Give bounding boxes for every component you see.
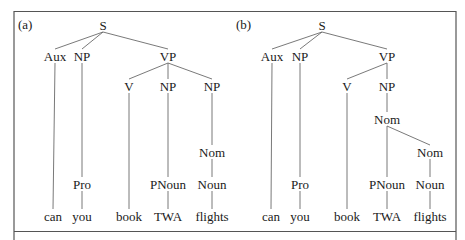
word-book: book bbox=[116, 209, 143, 224]
node-pro: Pro bbox=[291, 177, 309, 192]
node-np: NP bbox=[292, 49, 309, 64]
node-aux: Aux bbox=[261, 49, 284, 64]
tree-edge bbox=[322, 32, 387, 49]
node-nom: Nom bbox=[417, 145, 443, 160]
tree-edge bbox=[129, 63, 168, 79]
word-flights: flights bbox=[413, 209, 446, 224]
tree-edge bbox=[272, 32, 322, 49]
word-can: can bbox=[44, 209, 63, 224]
node-noun: Noun bbox=[198, 177, 227, 192]
node-nom: Nom bbox=[374, 112, 400, 127]
node-pnoun: PNoun bbox=[150, 177, 187, 192]
word-can: can bbox=[262, 209, 281, 224]
parse-tree-figure: (a) (b) SAuxNPVPVNPNPNomProPNounNouncany… bbox=[0, 0, 465, 240]
node-aux: Aux bbox=[44, 49, 67, 64]
panel-label-a: (a) bbox=[18, 17, 32, 32]
word-book: book bbox=[334, 209, 361, 224]
node-v: V bbox=[342, 79, 352, 94]
tree-edge bbox=[387, 126, 430, 145]
panel-label-b: (b) bbox=[236, 17, 251, 32]
tree-edge bbox=[82, 32, 103, 49]
tree-edge bbox=[271, 63, 272, 209]
node-nom: Nom bbox=[199, 145, 225, 160]
tree-edge bbox=[55, 32, 103, 49]
node-noun: Noun bbox=[416, 177, 445, 192]
node-np: NP bbox=[204, 79, 221, 94]
word-flights: flights bbox=[195, 209, 228, 224]
tree-edge bbox=[53, 63, 55, 209]
tree-edge bbox=[168, 63, 212, 79]
word-twa: TWA bbox=[373, 209, 402, 224]
tree-edge bbox=[103, 32, 168, 49]
tree-edge bbox=[300, 32, 322, 49]
node-pnoun: PNoun bbox=[369, 177, 406, 192]
node-vp: VP bbox=[379, 49, 396, 64]
node-vp: VP bbox=[160, 49, 177, 64]
tree-edge bbox=[347, 63, 387, 79]
node-np: NP bbox=[74, 49, 91, 64]
node-s: S bbox=[99, 18, 106, 33]
word-you: you bbox=[290, 209, 310, 224]
node-s: S bbox=[318, 18, 325, 33]
node-np: NP bbox=[160, 79, 177, 94]
word-you: you bbox=[72, 209, 92, 224]
node-pro: Pro bbox=[73, 177, 91, 192]
node-v: V bbox=[124, 79, 134, 94]
node-np: NP bbox=[379, 79, 396, 94]
word-twa: TWA bbox=[154, 209, 183, 224]
